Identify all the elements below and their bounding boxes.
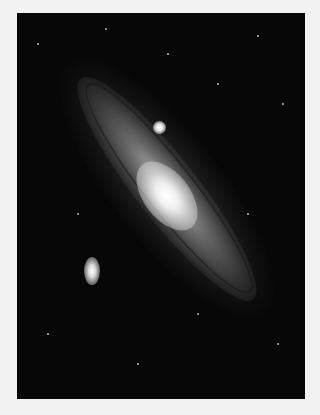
satellite-galaxy-m110 <box>84 257 100 285</box>
star <box>105 28 107 30</box>
star <box>47 333 49 335</box>
star <box>77 213 79 215</box>
star <box>197 313 199 315</box>
star <box>217 83 219 85</box>
star <box>37 43 39 45</box>
galaxy-photo <box>17 13 305 399</box>
satellite-galaxy-m32 <box>153 121 166 134</box>
star <box>137 363 139 365</box>
star <box>167 53 169 55</box>
star <box>277 343 279 345</box>
star <box>257 35 259 37</box>
star <box>247 213 249 215</box>
star <box>282 103 284 105</box>
